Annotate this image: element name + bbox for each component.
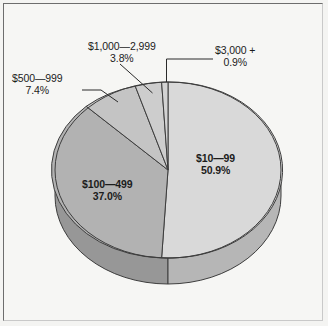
slice-label-1000-2999-value: 3.8% [88, 52, 156, 64]
slice-label-100-499-value: 37.0% [82, 190, 133, 202]
chart-figure: $1,000—2,999 3.8% $3,000 + 0.9% $500—999… [0, 0, 328, 326]
pie-chart-plot [0, 0, 328, 326]
slice-label-3000-plus-name: $3,000 + [215, 44, 255, 56]
slice-label-100-499-name: $100—499 [82, 178, 133, 190]
slice-label-100-499: $100—499 37.0% [82, 178, 133, 203]
slice-label-500-999-name: $500—999 [12, 72, 63, 84]
slice-label-10-99-name: $10—99 [196, 152, 235, 164]
slice-label-10-99-value: 50.9% [196, 164, 235, 176]
slice-label-3000-plus: $3,000 + 0.9% [215, 44, 255, 69]
leader-line-3000-plus [167, 59, 214, 82]
slice-label-10-99: $10—99 50.9% [196, 152, 235, 177]
slice-label-1000-2999-name: $1,000—2,999 [88, 40, 156, 52]
slice-label-3000-plus-value: 0.9% [215, 56, 255, 68]
slice-label-500-999: $500—999 7.4% [12, 72, 63, 97]
slice-label-500-999-value: 7.4% [12, 84, 63, 96]
slice-label-1000-2999: $1,000—2,999 3.8% [88, 40, 156, 65]
